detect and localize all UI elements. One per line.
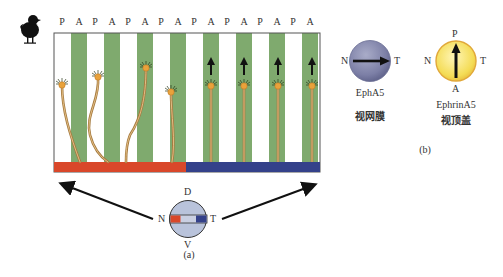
retina-label-nasal: N: [341, 55, 348, 66]
tectum-label-cn: 视顶盖: [426, 112, 486, 127]
nasal-projection-arrow: [62, 184, 153, 219]
tectum-label-anterior: A: [452, 83, 459, 94]
tectum-ligand-name: EphrinA5: [426, 99, 486, 110]
label-a: A: [302, 16, 318, 27]
tectum-label-posterior: P: [452, 28, 458, 39]
diagram-canvas: [0, 0, 503, 277]
label-a: A: [137, 16, 153, 27]
label-p: P: [219, 16, 235, 27]
eye-label-nasal: N: [158, 213, 165, 224]
tectum-label-temporal: T: [480, 55, 486, 66]
label-a: A: [203, 16, 219, 27]
label-a: A: [104, 16, 120, 27]
tectum-label-nasal: N: [424, 55, 431, 66]
label-a: A: [71, 16, 87, 27]
nasal-retina-bar: [54, 162, 186, 172]
retina-label-cn: 视网膜: [345, 108, 395, 123]
label-p: P: [252, 16, 268, 27]
label-p: P: [54, 16, 70, 27]
caption-a: (a): [172, 249, 206, 260]
temporal-projection-arrow: [222, 185, 314, 219]
chick-silhouette-icon: [20, 15, 41, 44]
label-p: P: [153, 16, 169, 27]
temporal-retina-bar: [186, 162, 320, 172]
label-p: P: [285, 16, 301, 27]
caption-b: (b): [410, 144, 440, 155]
label-p: P: [186, 16, 202, 27]
eye-label-dorsal: D: [184, 186, 191, 197]
label-a: A: [236, 16, 252, 27]
label-p: P: [87, 16, 103, 27]
retina-receptor-name: EphA5: [345, 87, 395, 98]
label-a: A: [170, 16, 186, 27]
retina-epha5-circle: [350, 41, 391, 82]
retina-label-temporal: T: [394, 55, 400, 66]
label-p: P: [120, 16, 136, 27]
eye-label-temporal: T: [210, 213, 216, 224]
tectum-ephrina5-circle: [436, 41, 476, 81]
label-a: A: [269, 16, 285, 27]
